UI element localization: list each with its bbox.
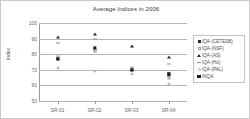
legend-item-label: IQA-(Ho) <box>202 59 220 66</box>
gridline <box>39 70 187 71</box>
data-point <box>93 32 97 35</box>
legend-item[interactable]: INQA <box>196 73 243 80</box>
data-point <box>130 73 133 76</box>
plot-area <box>39 23 187 101</box>
legend-item-label: IQA-(CETESB) <box>202 38 233 45</box>
data-point <box>167 76 170 79</box>
data-point <box>93 46 96 49</box>
gridline <box>39 39 187 40</box>
legend-item[interactable]: IQA-(Ho) <box>196 59 243 66</box>
data-point <box>93 50 96 53</box>
data-point <box>56 57 59 60</box>
legend-item-label: IQA-(AS) <box>202 52 221 59</box>
gridline <box>39 85 187 86</box>
legend-item[interactable]: IQA-(PAL) <box>196 66 243 73</box>
data-point <box>56 43 60 44</box>
y-axis-tick-label: 50 <box>21 98 37 104</box>
x-axis-tick-mark <box>132 101 133 104</box>
legend-item[interactable]: IQA-(NSF) <box>196 45 243 52</box>
data-point <box>130 45 134 48</box>
data-point <box>93 70 96 73</box>
data-point <box>56 36 60 39</box>
x-axis-tick-mark <box>95 101 96 104</box>
legend-item[interactable]: IQA-(CETESB) <box>196 38 243 45</box>
legend-item-label: IQA-(PAL) <box>202 66 223 73</box>
x-axis-tick-label: SR-02 <box>80 107 110 113</box>
legend-item-label: INQA <box>202 73 213 80</box>
data-point <box>130 68 133 71</box>
gridline <box>39 54 187 55</box>
y-axis-tick-label: 70 <box>21 67 37 73</box>
y-axis-tick-labels: 1009080706050 <box>19 23 37 101</box>
chart-title: Average Indices in 2006 <box>1 6 250 12</box>
data-point <box>167 56 171 59</box>
data-point <box>167 73 170 76</box>
y-axis-label: Index <box>5 34 11 74</box>
gridline <box>39 101 187 102</box>
legend-item-label: IQA-(NSF) <box>202 45 224 52</box>
y-axis-tick-label: 90 <box>21 36 37 42</box>
y-axis-tick-label: 60 <box>21 82 37 88</box>
x-axis-tick-label: SR-01 <box>43 107 73 113</box>
legend-item[interactable]: IQA-(AS) <box>196 52 243 59</box>
data-point <box>167 63 171 64</box>
gridline <box>39 23 187 24</box>
data-point <box>93 38 97 39</box>
y-axis-tick-label: 80 <box>21 51 37 57</box>
data-point <box>56 67 59 70</box>
chart-figure: Average Indices in 2006 Index 1009080706… <box>0 0 250 119</box>
chart-legend: IQA-(CETESB)IQA-(NSF)IQA-(AS)IQA-(Ho)IQA… <box>193 35 245 83</box>
x-axis-tick-mark <box>169 101 170 104</box>
x-axis-tick-label: SR-03 <box>117 107 147 113</box>
y-axis-tick-label: 100 <box>21 20 37 26</box>
data-point <box>167 82 170 85</box>
x-axis-tick-mark <box>58 101 59 104</box>
x-axis-tick-label: SR-04 <box>154 107 184 113</box>
